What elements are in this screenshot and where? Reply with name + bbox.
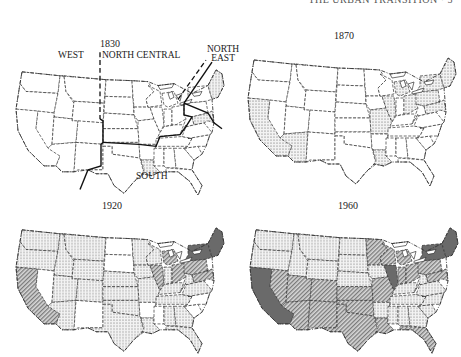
state-ms [154,148,164,166]
state-tn [390,295,426,305]
region-label-south: SOUTH [136,172,168,181]
state-ar [371,134,388,150]
state-tn [156,295,192,305]
map-1830: 1830 WEST NORTH CENTRAL NORTH EAST SOUTH [0,30,230,195]
state-ar [139,302,156,318]
state-ks [103,129,139,143]
state-nd [337,68,365,86]
state-ks [103,287,139,301]
state-wy [72,259,104,281]
state-sd [338,254,368,273]
state-tn [388,126,424,136]
state-ne [103,271,138,287]
map-1960: 1960 [230,195,461,357]
state-ut [286,275,312,302]
state-in [398,267,406,285]
state-ms [386,138,396,156]
state-in [164,109,172,127]
state-ms [154,306,164,324]
map-title-1870: 1870 [334,30,354,41]
state-nm [74,300,103,329]
state-co [310,279,337,303]
state-ut [52,117,78,144]
state-in [164,267,172,285]
state-co [308,110,335,134]
state-nd [105,238,133,256]
state-ar [373,302,390,318]
state-ne [335,102,370,118]
state-wy [304,90,336,112]
state-co [76,279,103,303]
state-wy [72,101,104,123]
state-nm [308,300,337,329]
state-ut [52,275,78,302]
map-1920: 1920 [0,195,230,357]
state-in [396,98,404,116]
map-1870: 1870 [230,30,461,195]
divider-west-tail [80,170,88,190]
state-ne [337,271,372,287]
map-title-1960: 1960 [338,200,358,211]
us-map-1870 [230,30,461,195]
state-nm [74,142,103,171]
state-co [76,121,103,145]
state-nm [306,132,335,162]
state-ks [335,118,371,132]
map-title-1830: 1830 [100,38,120,49]
state-ms [388,306,398,324]
state-sd [336,85,366,104]
state-ne [103,113,138,129]
state-tn [156,137,192,147]
state-nd [339,238,367,256]
region-label-north-central: NORTH CENTRAL [102,51,180,60]
state-ks [337,287,373,301]
running-head: THE URBAN TRANSITION · 5 [308,0,453,5]
us-map-1960 [230,195,461,357]
map-title-1920: 1920 [102,200,122,211]
us-map-1920 [0,195,230,357]
state-wy [306,259,338,281]
state-sd [104,254,134,273]
state-ut [284,106,310,134]
state-nd [105,80,133,98]
region-label-west: WEST [58,51,84,60]
state-sd [104,96,134,115]
